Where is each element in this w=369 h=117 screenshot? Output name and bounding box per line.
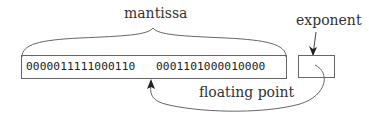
floating-point-diagram: mantissa exponent 0000011111000110 00011… [0,0,369,117]
mantissa-bits-group-2: 0001101000010000 [156,60,265,74]
exponent-label: exponent [296,12,362,28]
mantissa-label: mantissa [124,5,187,21]
mantissa-bits-group-1: 0000011111000110 [26,60,135,74]
mantissa-brace [22,28,286,57]
exponent-box [298,55,335,78]
floating-point-label: floating point [199,84,294,100]
